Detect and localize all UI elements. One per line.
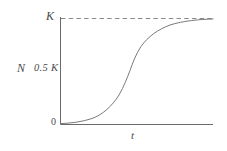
chart-canvas xyxy=(0,0,227,151)
y-tick-label-origin: 0 xyxy=(51,117,56,127)
y-axis-title: N xyxy=(17,62,25,74)
y-tick-label-carrying-capacity: K xyxy=(46,10,54,22)
x-axis-title: t xyxy=(131,130,134,141)
logistic-curve xyxy=(61,19,213,124)
logistic-growth-figure: K N 0.5 K 0 t xyxy=(0,0,227,151)
y-tick-label-half-capacity: 0.5 K xyxy=(34,63,58,74)
